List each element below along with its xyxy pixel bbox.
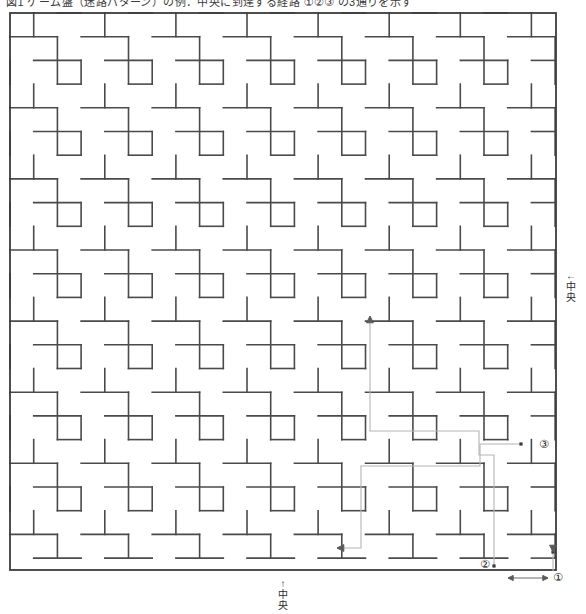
center-right-char-1: 中: [566, 281, 576, 292]
maze-walls: [10, 13, 555, 558]
scale-bar-arrow-2: [543, 575, 548, 580]
route-3-start-dot: [519, 442, 522, 445]
center-bottom-char-2: 央: [272, 600, 294, 611]
route-marker-1: ①: [553, 572, 563, 583]
center-label-right: ← 中央: [566, 270, 576, 303]
scale-bar-arrow-1: [508, 575, 513, 580]
page-root: 図1 ゲーム盤（迷路パターン）の例：中央に到達する経路 ①②③ の3通りを示す …: [0, 0, 586, 614]
center-right-char-2: 央: [566, 292, 576, 303]
center-bottom-char-1: 中: [272, 589, 294, 600]
scale-bar: [508, 575, 548, 580]
route-3-arrowhead: [337, 545, 344, 552]
route-3: [337, 444, 521, 548]
center-label-bottom: ↑ 中 央: [272, 578, 294, 611]
center-right-arrow: ←: [566, 270, 576, 281]
maze-diagram: [0, 0, 586, 614]
center-bottom-arrow: ↑: [272, 578, 294, 589]
route-2-arrowhead: [367, 316, 374, 323]
route-marker-3: ③: [539, 439, 549, 450]
route-2-start-dot: [492, 564, 495, 567]
route-marker-2: ②: [480, 559, 490, 570]
maze-routes: [337, 318, 555, 571]
